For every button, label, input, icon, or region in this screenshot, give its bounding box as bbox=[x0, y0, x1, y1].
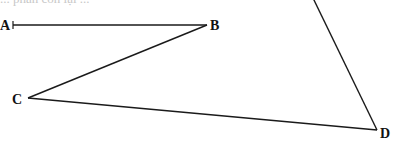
segment-bc bbox=[28, 25, 207, 98]
geometry-figure: A B C D bbox=[0, 0, 400, 142]
label-b: B bbox=[210, 18, 219, 33]
label-d: D bbox=[380, 126, 390, 141]
segment-cd bbox=[28, 98, 377, 130]
segment-d-up bbox=[313, 0, 377, 130]
label-a: A bbox=[0, 18, 11, 33]
label-c: C bbox=[12, 92, 22, 107]
